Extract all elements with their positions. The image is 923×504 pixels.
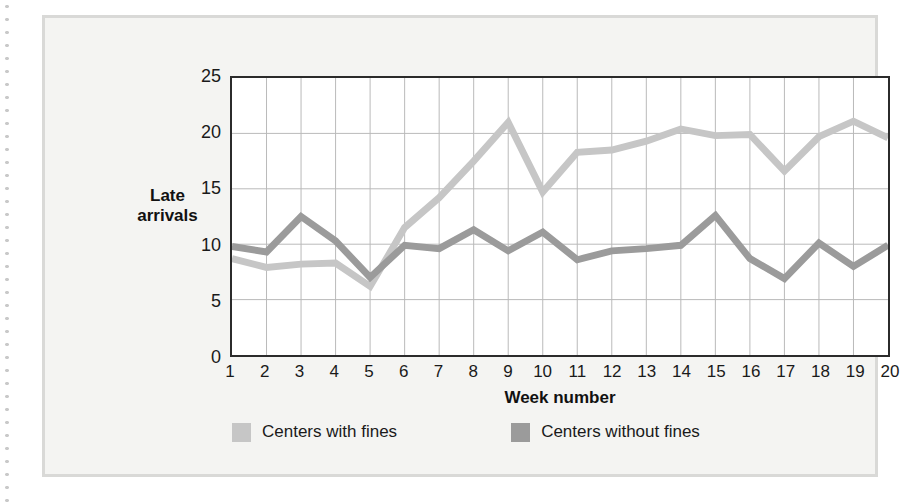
legend-item-centers-with-fines: Centers with fines <box>232 422 397 442</box>
y-axis-tick-label: 0 <box>211 347 221 368</box>
x-axis-tick-label: 2 <box>260 362 269 382</box>
y-axis-tick-label: 20 <box>201 122 221 143</box>
y-axis-tick-label: 15 <box>201 178 221 199</box>
x-axis-tick-label: 18 <box>811 362 830 382</box>
x-axis-tick-label: 15 <box>707 362 726 382</box>
page-edge-dots <box>4 0 10 504</box>
y-axis-tick-label: 10 <box>201 234 221 255</box>
legend-swatch-icon <box>511 423 530 442</box>
x-axis-tick-label: 20 <box>881 362 900 382</box>
figure-panel: Late arrivals 0510152025 123456789101112… <box>42 15 878 477</box>
x-axis-tick-label: 16 <box>742 362 761 382</box>
y-axis-tick-label: 25 <box>201 66 221 87</box>
x-axis-tick-label: 14 <box>672 362 691 382</box>
x-axis-tick-label: 9 <box>503 362 512 382</box>
line-chart-svg <box>232 78 888 355</box>
x-axis-tick-label: 11 <box>569 362 587 382</box>
x-axis-tick-label: 6 <box>399 362 408 382</box>
x-axis-tick-label: 3 <box>295 362 304 382</box>
legend-swatch-icon <box>232 423 251 442</box>
legend-label: Centers without fines <box>541 422 700 442</box>
plot-wrapper: 0510152025 12345678910111213141516171819… <box>230 76 890 357</box>
x-axis-tick-label: 12 <box>603 362 622 382</box>
plot-area <box>230 76 890 357</box>
x-axis-tick-label: 19 <box>846 362 865 382</box>
x-axis-tick-label: 1 <box>225 362 234 382</box>
x-axis-tick-label: 7 <box>434 362 443 382</box>
x-axis-tick-label: 13 <box>637 362 656 382</box>
x-axis-tick-label: 17 <box>776 362 795 382</box>
chart-legend: Centers with fines Centers without fines <box>230 422 890 442</box>
x-axis-tick-label: 8 <box>468 362 477 382</box>
y-axis-tick-label: 5 <box>211 290 221 311</box>
chart-screenshot: Late arrivals 0510152025 123456789101112… <box>0 0 923 504</box>
x-axis-tick-label: 5 <box>364 362 373 382</box>
x-axis-title: Week number <box>230 388 890 408</box>
y-axis-title-line-2: arrivals <box>115 206 220 226</box>
x-axis-tick-label: 4 <box>329 362 338 382</box>
legend-label: Centers with fines <box>262 422 397 442</box>
x-axis-tick-label: 10 <box>533 362 552 382</box>
legend-item-centers-without-fines: Centers without fines <box>511 422 700 442</box>
